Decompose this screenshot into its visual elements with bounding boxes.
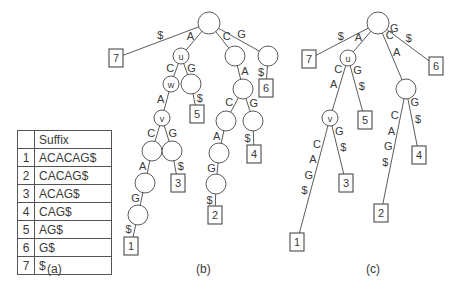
tree-c-node [367,12,389,34]
row-suffix: ACAG$ [35,185,112,203]
tree-c-edge-label: $ [406,32,412,44]
caption-c: (c) [366,262,380,276]
header-index [18,131,35,149]
tree-b-edge-label: C [223,30,231,42]
suffix-table: Suffix 1ACACAG$ 2CACAG$ 3ACAG$ 4CAG$ 5AG… [17,130,112,275]
tree-c-edge-label: A [309,153,317,165]
tree-c-edge-label: $ [340,141,346,153]
tree-c-node-label: v [328,114,333,124]
tree-c-leaf-label: 5 [362,114,368,126]
tree-c-leaf-label: 4 [416,149,422,161]
tree-b-leaf-label: 3 [175,177,181,189]
tree-c-edge-label: $ [415,113,421,125]
row-index: 6 [18,239,35,257]
tree-b-edge-label: $ [178,160,184,172]
tree-b-edge-label: $ [206,194,212,206]
table-row: 1ACACAG$ [18,149,112,167]
tree-b-edge-label: C [147,127,155,139]
tree-b-leaf-label: 5 [194,108,200,120]
tree-b-node [162,141,182,161]
tree-c-edge-label: $ [382,156,388,168]
suffix-table-header: Suffix [18,131,112,149]
tree-b-edge-label: $ [258,66,264,78]
tree-b-leaf-label: 1 [128,240,134,252]
tree-b-node [135,173,155,193]
tree-b-node-label: w [167,80,175,90]
table-row: 2CACAG$ [18,167,112,185]
tree-c-node [396,79,416,99]
tree-b-leaf-label: 7 [113,52,119,64]
table-row: 4CAG$ [18,203,112,221]
tree-b-node-label: v [160,114,165,124]
row-suffix: G$ [35,239,112,257]
row-suffix: ACACAG$ [35,149,112,167]
row-index: 3 [18,185,35,203]
tree-b-node [233,79,253,99]
row-index: 7 [18,257,35,275]
tree-c-edge-label: A [330,78,338,90]
tree-b-edge-label: G [249,97,258,109]
tree-b-node [128,205,148,225]
tree-b-leaf-label: 4 [251,148,257,160]
table-row: 6G$ [18,239,112,257]
tree-c-leaf-label: 7 [306,53,312,65]
tree-b-edge-label: A [139,160,147,172]
table-row: 7$ [18,257,112,275]
tree-b-edge-label: A [187,30,195,42]
tree-b-edge-label: A [241,65,249,77]
tree-c-edge [297,118,330,242]
tree-b-edge-label: G [168,127,177,139]
table-row: 3ACAG$ [18,185,112,203]
tree-b-node [225,46,245,66]
tree-c-edge-label: G [353,64,362,76]
tree-c-edge-label: G [335,125,344,137]
tree-b-node [209,143,229,163]
tree-b-node [198,12,220,34]
tree-c-leaf-label: 3 [343,177,349,189]
tree-c-edge-label: C [313,138,321,150]
tree-c-edge-label: C [334,63,342,75]
tree-c-edge-label: A [393,46,401,58]
tree-b-node [258,46,278,66]
tree-b-node [142,141,162,161]
row-index: 1 [18,149,35,167]
tree-c-edge-label: G [384,140,393,152]
tree-b-edge-label: $ [244,132,250,144]
tree-c-edge-label: C [391,109,399,121]
tree-c-leaf-label: 6 [433,60,439,72]
tree-c-leaf-label: 2 [378,207,384,219]
caption-b: (b) [196,262,211,276]
tree-c-node-label: u [345,54,350,64]
row-index: 2 [18,167,35,185]
tree-b-node [181,74,201,94]
tree-b-edge-label: $ [157,29,163,41]
tree-c-edge-label: $ [302,184,308,196]
tree-b-edge-label: G [207,162,216,174]
tree-b-edge-label: A [213,130,221,142]
tree-c-edge-label: G [390,22,399,34]
tree-c-edge-label: A [355,31,363,43]
tree-b-leaf-label: 2 [212,209,218,221]
tree-b-node-label: u [178,52,183,62]
table-row: 5AG$ [18,221,112,239]
tree-b-edge-label: A [157,93,165,105]
tree-b-leaf-label: 6 [263,82,269,94]
tree-c-edge-label: A [388,125,396,137]
tree-c-edge-label: $ [359,80,365,92]
tree-b-node [216,111,236,131]
caption-a: (a) [47,262,62,276]
tree-b-edge-label: G [237,28,246,40]
row-suffix: CAG$ [35,203,112,221]
tree-b-edge-label: $ [126,223,132,235]
row-suffix: CACAG$ [35,167,112,185]
row-suffix: AG$ [35,221,112,239]
header-suffix: Suffix [35,131,112,149]
tree-c-edge-label: G [410,96,419,108]
tree-b-node [243,111,263,131]
tree-b-edge-label: G [131,192,140,204]
tree-b-edge-label: $ [197,92,203,104]
tree-c-edge-label: G [304,169,313,181]
tree-b-node [206,174,226,194]
tree-c-edge-label: $ [338,30,344,42]
tree-c-leaf-label: 1 [294,236,300,248]
